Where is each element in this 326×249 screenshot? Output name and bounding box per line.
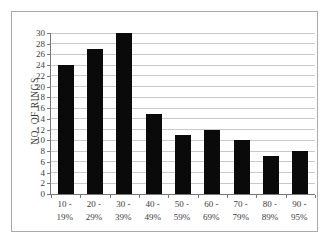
bar-40 - 49% bbox=[146, 114, 162, 195]
x-category-label-3: 30 -39% bbox=[109, 198, 138, 224]
x-category-label-7: 70 -79% bbox=[226, 198, 255, 224]
x-label-line1: 80 - bbox=[255, 198, 284, 211]
x-label-line1: 40 - bbox=[138, 198, 167, 211]
x-label-line2: 95% bbox=[285, 211, 314, 224]
y-tick-mark-16 bbox=[47, 108, 51, 109]
y-tick-mark-24 bbox=[47, 65, 51, 66]
x-label-line1: 10 - bbox=[50, 198, 79, 211]
x-category-label-1: 10 -19% bbox=[50, 198, 79, 224]
bar-70 - 79% bbox=[234, 140, 250, 194]
y-tick-mark-8 bbox=[47, 151, 51, 152]
x-label-line1: 30 - bbox=[109, 198, 138, 211]
x-label-line1: 60 - bbox=[197, 198, 226, 211]
x-label-line1: 50 - bbox=[167, 198, 196, 211]
x-label-line2: 79% bbox=[226, 211, 255, 224]
bar-90 - 95% bbox=[292, 151, 308, 194]
x-category-label-6: 60 -69% bbox=[197, 198, 226, 224]
y-tick-mark-26 bbox=[47, 54, 51, 55]
y-tick-label-30: 30 bbox=[21, 28, 45, 38]
x-category-label-2: 20 -29% bbox=[79, 198, 108, 224]
y-tick-label-2: 2 bbox=[21, 178, 45, 188]
y-tick-label-26: 26 bbox=[21, 49, 45, 59]
y-tick-label-16: 16 bbox=[21, 103, 45, 113]
y-tick-label-18: 18 bbox=[21, 92, 45, 102]
y-tick-label-12: 12 bbox=[21, 125, 45, 135]
y-tick-mark-10 bbox=[47, 140, 51, 141]
plot-area bbox=[50, 33, 315, 195]
x-label-line1: 20 - bbox=[79, 198, 108, 211]
y-tick-mark-30 bbox=[47, 33, 51, 34]
x-label-line1: 70 - bbox=[226, 198, 255, 211]
x-label-line1: 90 - bbox=[285, 198, 314, 211]
bar-80 - 89% bbox=[263, 156, 279, 194]
y-tick-label-22: 22 bbox=[21, 71, 45, 81]
y-tick-mark-12 bbox=[47, 130, 51, 131]
y-tick-mark-2 bbox=[47, 183, 51, 184]
x-category-label-4: 40 -49% bbox=[138, 198, 167, 224]
x-label-line2: 19% bbox=[50, 211, 79, 224]
x-label-line2: 49% bbox=[138, 211, 167, 224]
gridline-30 bbox=[51, 33, 315, 34]
y-tick-label-20: 20 bbox=[21, 82, 45, 92]
bar-50 - 59% bbox=[175, 135, 191, 194]
y-tick-label-6: 6 bbox=[21, 157, 45, 167]
y-tick-label-28: 28 bbox=[21, 39, 45, 49]
x-label-line2: 69% bbox=[197, 211, 226, 224]
gridline-28 bbox=[51, 43, 315, 44]
x-label-line2: 89% bbox=[255, 211, 284, 224]
chart-frame: NO. OF RINGS 024681012141618202224262830… bbox=[11, 11, 318, 232]
y-tick-mark-22 bbox=[47, 76, 51, 77]
y-tick-label-0: 0 bbox=[21, 189, 45, 199]
x-category-label-8: 80 -89% bbox=[255, 198, 284, 224]
bar-30 - 39% bbox=[116, 33, 132, 194]
y-tick-label-14: 14 bbox=[21, 114, 45, 124]
x-label-line2: 59% bbox=[167, 211, 196, 224]
y-tick-label-4: 4 bbox=[21, 168, 45, 178]
bar-60 - 69% bbox=[204, 130, 220, 194]
y-tick-mark-20 bbox=[47, 87, 51, 88]
x-tick-mark-9 bbox=[315, 195, 316, 198]
y-tick-mark-14 bbox=[47, 119, 51, 120]
bar-10 - 19% bbox=[58, 65, 74, 194]
bar-chart: NO. OF RINGS 024681012141618202224262830… bbox=[0, 0, 326, 249]
y-tick-mark-4 bbox=[47, 173, 51, 174]
y-tick-label-24: 24 bbox=[21, 60, 45, 70]
y-tick-label-10: 10 bbox=[21, 135, 45, 145]
y-tick-label-8: 8 bbox=[21, 146, 45, 156]
y-tick-mark-6 bbox=[47, 162, 51, 163]
y-tick-mark-28 bbox=[47, 44, 51, 45]
y-tick-mark-18 bbox=[47, 97, 51, 98]
x-category-label-9: 90 -95% bbox=[285, 198, 314, 224]
bar-20 - 29% bbox=[87, 49, 103, 194]
x-category-label-5: 50 -59% bbox=[167, 198, 196, 224]
x-label-line2: 29% bbox=[79, 211, 108, 224]
x-label-line2: 39% bbox=[109, 211, 138, 224]
